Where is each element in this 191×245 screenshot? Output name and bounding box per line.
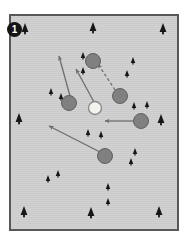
movement-arrow <box>49 126 100 152</box>
movement-arrow <box>98 64 115 90</box>
tree-trunk-icon <box>160 123 162 125</box>
tree-crown-icon <box>129 158 134 164</box>
tree-trunk-icon <box>146 107 147 109</box>
tree-crown-icon <box>88 207 95 216</box>
tree-crown-icon <box>160 23 167 32</box>
tree-icon <box>21 206 28 217</box>
tree-trunk-icon <box>57 176 58 178</box>
patch-node <box>86 54 101 69</box>
tree-crown-icon <box>131 57 136 63</box>
tree-trunk-icon <box>23 215 25 217</box>
tree-icon <box>90 22 97 33</box>
tree-trunk-icon <box>24 32 26 34</box>
tree-trunk-icon <box>82 73 83 75</box>
tree-crown-icon <box>106 183 111 189</box>
tree-trunk-icon <box>134 154 135 156</box>
tree-crown-icon <box>22 23 29 32</box>
tree-crown-icon <box>56 170 61 176</box>
tree-icon <box>133 148 138 156</box>
tree-icon <box>81 52 86 60</box>
tree-icon <box>88 207 95 218</box>
tree-crown-icon <box>59 93 64 99</box>
tree-icon <box>131 57 136 65</box>
habitat-plot-area <box>9 14 179 231</box>
tree-trunk-icon <box>130 164 131 166</box>
source-patch-node <box>89 102 102 115</box>
patch-node <box>98 149 113 164</box>
tree-trunk-icon <box>47 181 48 183</box>
movement-arrow <box>76 69 94 102</box>
tree-trunk-icon <box>132 63 133 65</box>
tree-trunk-icon <box>60 99 61 101</box>
tree-trunk-icon <box>158 215 160 217</box>
patch-node <box>134 114 149 129</box>
tree-crown-icon <box>21 206 28 215</box>
figure-panel: 1 <box>0 0 191 245</box>
tree-icon <box>22 23 29 34</box>
tree-trunk-icon <box>162 32 164 34</box>
tree-icon <box>49 88 54 96</box>
tree-trunk-icon <box>82 58 83 60</box>
tree-icon <box>158 114 165 125</box>
tree-icon <box>160 23 167 34</box>
tree-icon <box>145 101 150 109</box>
tree-icon <box>106 183 111 191</box>
tree-trunk-icon <box>126 76 127 78</box>
tree-trunk-icon <box>107 189 108 191</box>
tree-trunk-icon <box>133 108 134 110</box>
tree-crown-icon <box>99 131 104 137</box>
tree-crown-icon <box>16 113 23 122</box>
tree-crown-icon <box>133 148 138 154</box>
tree-icon <box>99 131 104 139</box>
tree-icon <box>106 198 111 206</box>
patch-node-group <box>62 54 149 164</box>
tree-crown-icon <box>81 52 86 58</box>
tree-icon <box>129 158 134 166</box>
tree-crown-icon <box>106 198 111 204</box>
tree-trunk-icon <box>107 204 108 206</box>
tree-crown-icon <box>132 102 137 108</box>
tree-trunk-icon <box>87 135 88 137</box>
tree-icon <box>56 170 61 178</box>
tree-trunk-icon <box>92 31 94 33</box>
scene-vector-layer <box>11 16 177 229</box>
patch-node <box>113 89 128 104</box>
tree-crown-icon <box>46 175 51 181</box>
tree-trunk-icon <box>100 137 101 139</box>
tree-crown-icon <box>86 129 91 135</box>
movement-arrow <box>59 56 70 96</box>
tree-icon <box>125 70 130 78</box>
tree-crown-icon <box>156 206 163 215</box>
tree-trunk-icon <box>18 122 20 124</box>
tree-crown-icon <box>49 88 54 94</box>
tree-icon <box>86 129 91 137</box>
tree-icon <box>16 113 23 124</box>
tree-crown-icon <box>81 67 86 73</box>
tree-icon <box>156 206 163 217</box>
patch-node <box>62 96 77 111</box>
panel-number-label: 1 <box>7 22 22 37</box>
tree-icon <box>132 102 137 110</box>
tree-crown-icon <box>125 70 130 76</box>
tree-icon <box>81 67 86 75</box>
tree-crown-icon <box>145 101 150 107</box>
tree-icon <box>46 175 51 183</box>
tree-trunk-icon <box>50 94 51 96</box>
tree-trunk-icon <box>90 216 92 218</box>
tree-crown-icon <box>158 114 165 123</box>
tree-crown-icon <box>90 22 97 31</box>
